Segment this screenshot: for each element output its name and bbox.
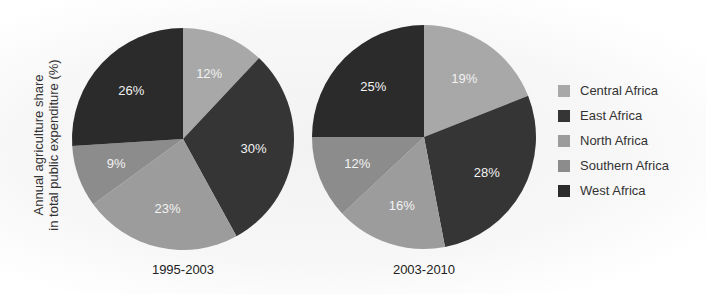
pie-title-2003-2010: 2003-2010 (393, 262, 455, 277)
legend-swatch (558, 85, 570, 97)
slice-value-label: 9% (107, 156, 126, 171)
legend-item-east-africa: East Africa (558, 103, 669, 128)
legend-item-central-africa: Central Africa (558, 78, 669, 103)
slice-value-label: 12% (344, 156, 370, 171)
slice-value-label: 25% (360, 79, 386, 94)
legend-swatch (558, 135, 570, 147)
y-axis-label-line2: in total public expenditure (%) (46, 35, 61, 255)
legend-item-north-africa: North Africa (558, 128, 669, 153)
slice-value-label: 16% (389, 198, 415, 213)
pie-chart-2003-2010: 19%28%16%12%25% (312, 25, 536, 249)
pie-title-1995-2003: 1995-2003 (152, 262, 214, 277)
legend: Central Africa East Africa North Africa … (558, 78, 669, 203)
slice-value-label: 19% (451, 71, 477, 86)
legend-label: Southern Africa (580, 158, 669, 173)
legend-swatch (558, 110, 570, 122)
legend-swatch (558, 185, 570, 197)
y-axis-label: Annual agriculture share in total public… (31, 35, 61, 255)
slice-value-label: 12% (196, 66, 222, 81)
legend-item-west-africa: West Africa (558, 178, 669, 203)
slice-value-label: 26% (118, 83, 144, 98)
legend-label: North Africa (580, 133, 648, 148)
legend-label: Central Africa (580, 83, 658, 98)
legend-label: West Africa (580, 183, 646, 198)
slice-value-label: 30% (240, 141, 266, 156)
pie-chart-1995-2003: 12%30%23%9%26% (72, 28, 294, 250)
slice-value-label: 28% (474, 165, 500, 180)
legend-item-southern-africa: Southern Africa (558, 153, 669, 178)
slice-value-label: 23% (154, 201, 180, 216)
legend-swatch (558, 160, 570, 172)
y-axis-label-line1: Annual agriculture share (31, 35, 46, 255)
legend-label: East Africa (580, 108, 642, 123)
